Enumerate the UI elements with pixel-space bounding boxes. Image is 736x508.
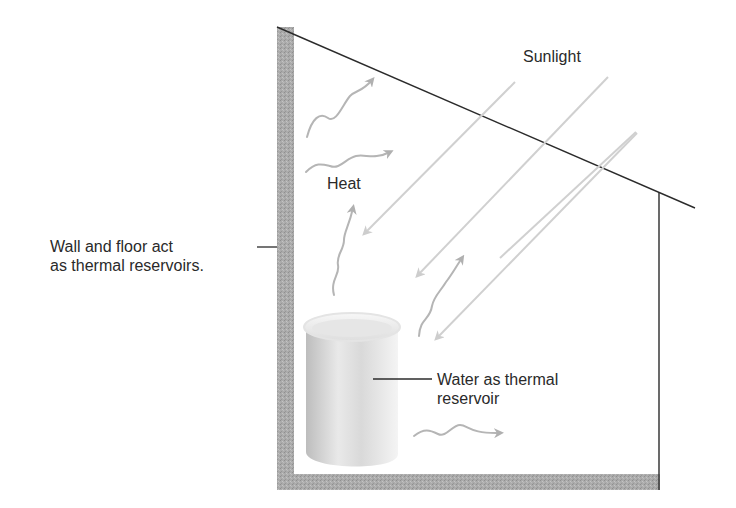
heat-wave-4 xyxy=(419,258,462,336)
barrel-water-surface xyxy=(312,319,392,337)
wall-floor-label: Wall and floor act as thermal reservoirs… xyxy=(50,237,204,275)
heat-label: Heat xyxy=(327,174,361,193)
water-label-line-2: reservoir xyxy=(437,389,558,408)
sunlight-rays xyxy=(365,77,637,338)
sun-ray-3 xyxy=(500,132,636,258)
heat-wave-2 xyxy=(306,152,390,172)
sun-ray-4 xyxy=(437,133,637,338)
wall-floor-label-line-1: Wall and floor act xyxy=(50,237,204,256)
barrel-body xyxy=(306,330,398,467)
water-label-line-1: Water as thermal xyxy=(437,370,558,389)
heat-wave-5 xyxy=(414,425,500,436)
water-label: Water as thermal reservoir xyxy=(437,370,558,408)
wall-floor-label-line-2: as thermal reservoirs. xyxy=(50,256,204,275)
heat-wave-3 xyxy=(333,208,353,295)
floor xyxy=(277,474,660,490)
sunlight-label: Sunlight xyxy=(523,47,581,66)
sun-ray-1 xyxy=(365,82,515,233)
water-barrel xyxy=(304,313,400,467)
left-wall xyxy=(277,27,294,490)
heat-wave-1 xyxy=(307,80,372,137)
